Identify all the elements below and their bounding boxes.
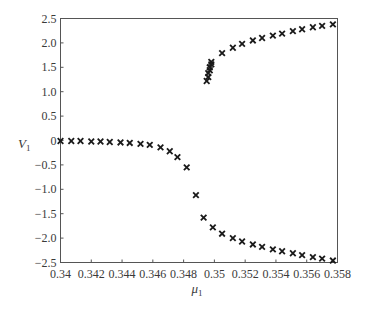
- data-point-marker: [319, 23, 325, 29]
- data-point-marker: [250, 38, 256, 44]
- data-point-marker: [127, 140, 133, 146]
- y-tick-label: −0.5: [35, 158, 57, 172]
- data-point-marker: [219, 231, 225, 237]
- data-point-marker: [279, 31, 285, 37]
- data-point-marker: [147, 142, 153, 148]
- data-point-marker: [299, 252, 305, 258]
- data-point-marker: [193, 192, 199, 198]
- data-point-marker: [68, 138, 74, 144]
- data-point-marker: [259, 244, 265, 250]
- data-point-marker: [230, 235, 236, 241]
- y-axis-label: V1: [18, 136, 30, 153]
- x-tick-label: 0.346: [139, 267, 166, 281]
- x-tick-label: 0.352: [232, 267, 259, 281]
- x-tick-label: 0.354: [262, 267, 289, 281]
- data-point-marker: [299, 26, 305, 32]
- data-point-marker: [98, 139, 104, 145]
- data-point-marker: [230, 45, 236, 51]
- data-point-marker: [279, 248, 285, 254]
- data-point-marker: [167, 148, 173, 154]
- data-point-marker: [138, 141, 144, 147]
- data-point-marker: [239, 41, 245, 47]
- x-tick-label: 0.356: [293, 267, 320, 281]
- y-tick-label: 2.0: [42, 36, 57, 50]
- data-point-marker: [107, 139, 113, 145]
- data-point-marker: [78, 138, 84, 144]
- y-tick-label: 1.0: [42, 85, 57, 99]
- data-point-marker: [270, 33, 276, 39]
- data-point-marker: [310, 254, 316, 260]
- data-point-marker: [310, 24, 316, 30]
- y-tick-label: −2.0: [35, 231, 57, 245]
- data-point-marker: [270, 247, 276, 253]
- x-tick-label: 0.348: [170, 267, 197, 281]
- x-tick-label: 0.342: [78, 267, 105, 281]
- data-point-marker: [201, 215, 207, 221]
- data-point-marker: [259, 35, 265, 41]
- data-point-marker: [88, 139, 94, 145]
- y-tick-label: −1.0: [35, 182, 57, 196]
- scatter-chart: 0.340.3420.3440.3460.3480.350.3520.3540.…: [0, 0, 368, 316]
- data-point-marker: [330, 22, 336, 28]
- data-point-marker: [319, 256, 325, 262]
- y-tick-label: −2.5: [35, 256, 57, 270]
- data-point-marker: [219, 50, 225, 56]
- x-axis-label: μ1: [190, 281, 202, 298]
- y-tick-label: 1.5: [42, 60, 57, 74]
- data-markers: [58, 22, 336, 264]
- data-point-marker: [250, 242, 256, 248]
- y-tick-label: −1.5: [35, 207, 57, 221]
- data-point-marker: [290, 250, 296, 256]
- x-tick-label: 0.35: [204, 267, 225, 281]
- data-point-marker: [118, 140, 124, 146]
- y-tick-label: 0.5: [42, 109, 57, 123]
- data-point-marker: [158, 145, 164, 151]
- data-point-marker: [210, 225, 216, 231]
- data-point-marker: [184, 165, 190, 171]
- x-tick-label: 0.358: [324, 267, 351, 281]
- y-tick-label: 2.5: [42, 12, 57, 26]
- data-point-marker: [239, 239, 245, 245]
- y-tick-label: 0: [51, 134, 57, 148]
- data-point-marker: [290, 28, 296, 34]
- data-point-marker: [175, 154, 181, 160]
- x-tick-label: 0.344: [109, 267, 136, 281]
